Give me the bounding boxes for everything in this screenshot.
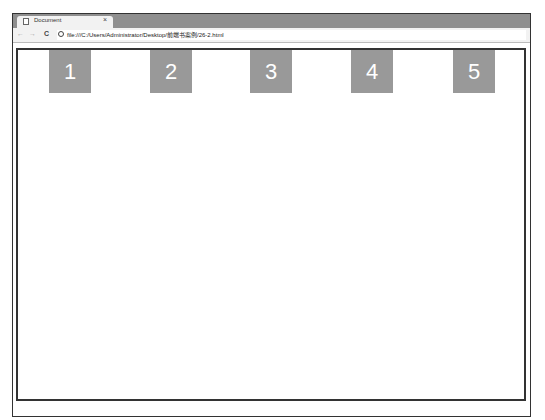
back-button[interactable]: ← <box>17 30 24 37</box>
tab-document[interactable]: Document × <box>17 16 113 28</box>
forward-button[interactable]: → <box>29 30 36 37</box>
document-icon <box>23 18 29 25</box>
address-bar: ← → C file:///C:/Users/Administrator/Des… <box>13 28 530 43</box>
tab-bar: Document × <box>13 14 530 28</box>
reload-button[interactable]: C <box>44 30 49 37</box>
tab-title: Document <box>34 17 61 23</box>
box-5: 5 <box>453 50 495 93</box>
box-2: 2 <box>150 50 192 93</box>
close-tab-icon[interactable]: × <box>103 16 107 23</box>
browser-window: Document × ← → C file:///C:/Users/Admini… <box>12 13 531 417</box>
url-text: file:///C:/Users/Administrator/Desktop/前… <box>67 30 224 39</box>
box-3: 3 <box>250 50 292 93</box>
info-icon[interactable] <box>58 31 64 37</box>
box-4: 4 <box>351 50 393 93</box>
page-content: 1 2 3 4 5 <box>13 43 530 416</box>
box-1: 1 <box>49 50 91 93</box>
url-input[interactable]: file:///C:/Users/Administrator/Desktop/前… <box>57 30 526 40</box>
bordered-container: 1 2 3 4 5 <box>16 48 526 401</box>
